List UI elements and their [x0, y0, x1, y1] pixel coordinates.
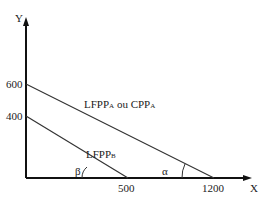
- line-lfpp-a: LFPPA ou CPPA α: [26, 84, 214, 178]
- x-axis-label: X: [250, 182, 258, 194]
- line-a-label: LFPPA ou CPPA: [84, 98, 155, 110]
- alpha-angle-arc-icon: [182, 164, 185, 178]
- line-lfpp-b: LFPPB β: [26, 116, 128, 178]
- x-tick-1200: 1200: [202, 182, 225, 194]
- beta-angle-arc-icon: [82, 167, 87, 178]
- ppf-diagram: Y X 600 400 500 1200 LFPPA ou CPPA α LFP…: [0, 0, 264, 198]
- y-axis-label: Y: [15, 12, 23, 24]
- x-axis-arrow-icon: [243, 175, 252, 181]
- y-tick-600: 600: [6, 78, 23, 90]
- y-axis-arrow-icon: [23, 17, 29, 26]
- line-b-label: LFPPB: [86, 148, 116, 160]
- beta-angle-label: β: [75, 165, 81, 177]
- x-tick-500: 500: [118, 182, 135, 194]
- alpha-angle-label: α: [162, 165, 168, 177]
- y-axis: Y: [15, 12, 29, 178]
- y-tick-400: 400: [6, 110, 23, 122]
